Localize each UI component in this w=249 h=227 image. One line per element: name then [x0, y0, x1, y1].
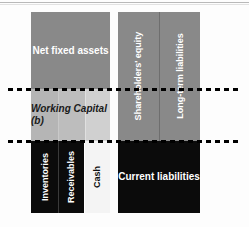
- block-current-liabilities-label: Current liabilities: [118, 171, 200, 182]
- block-shareholders-equity: Shareholders' equity: [118, 12, 159, 141]
- block-inventories-label: Inventories: [39, 153, 49, 201]
- separator-line-upper: [8, 88, 242, 91]
- assets-panel: Net fixed assets Working Capital (b) Inv…: [31, 12, 110, 213]
- block-net-fixed-assets-label: Net fixed assets: [32, 45, 108, 56]
- working-capital-divider-1: [58, 89, 59, 141]
- block-cash-label: Cash: [92, 166, 102, 188]
- block-receivables: Receivables: [58, 141, 85, 213]
- block-net-fixed-assets: Net fixed assets: [31, 12, 110, 89]
- separator-line-lower: [8, 140, 242, 143]
- long-term-divider: [159, 12, 160, 141]
- current-assets-divider-2: [84, 141, 85, 213]
- working-capital-band: [31, 89, 110, 141]
- block-receivables-label: Receivables: [66, 151, 76, 203]
- block-long-term-liabilities-label: Long-term liabilities: [174, 34, 184, 120]
- working-capital-segment-cash: [85, 89, 110, 141]
- top-rule-secondary: [0, 4, 249, 5]
- liabilities-panel: Shareholders' equity Long-term liabiliti…: [118, 12, 200, 213]
- balance-sheet-diagram: Net fixed assets Working Capital (b) Inv…: [0, 0, 249, 227]
- working-capital-segment-receivables: [58, 89, 85, 141]
- block-inventories: Inventories: [31, 141, 58, 213]
- block-long-term-liabilities: Long-term liabilities: [159, 12, 200, 141]
- block-shareholders-equity-label: Shareholders' equity: [133, 32, 143, 121]
- top-rule-primary: [0, 2, 249, 3]
- current-assets-divider-1: [58, 141, 59, 213]
- block-current-liabilities: Current liabilities: [118, 141, 200, 213]
- block-cash: Cash: [85, 141, 110, 213]
- working-capital-segment-inventories: [31, 89, 58, 141]
- working-capital-divider-2: [85, 89, 86, 141]
